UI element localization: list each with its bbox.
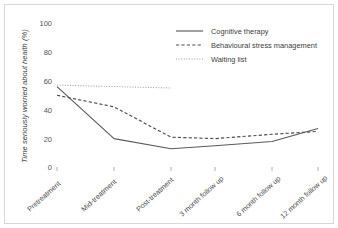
- x-tick-label-12-month-follow-up: 12 month follow up: [278, 173, 329, 220]
- x-axis-labels: Pretreatment Mid-treatment Post-treatmen…: [25, 173, 329, 220]
- x-tick-label-pretreatment: Pretreatment: [25, 179, 62, 213]
- y-tick-label: 80: [44, 48, 52, 57]
- series-group: [57, 85, 318, 149]
- legend: Cognitive therapy Behavioural stress man…: [176, 27, 317, 64]
- series-waiting-list: [57, 85, 171, 88]
- y-tick-label: 60: [44, 77, 52, 86]
- y-tick-label: 0: [48, 163, 52, 172]
- y-axis-ticks: 100 80 60 40 20 0: [39, 19, 52, 172]
- legend-label-waiting-list: Waiting list: [211, 55, 246, 64]
- line-chart: Time seriously worried about health (%) …: [0, 0, 338, 228]
- series-cognitive-therapy: [57, 87, 318, 149]
- x-axis-tick-marks: [57, 167, 318, 171]
- x-tick-label-6-month-follow-up: 6 month follow up: [234, 174, 282, 218]
- y-axis-title: Time seriously worried about health (%): [20, 29, 29, 163]
- y-tick-label: 40: [44, 106, 52, 115]
- chart-figure: Time seriously worried about health (%) …: [0, 0, 338, 228]
- series-behavioural-stress-management: [57, 95, 318, 138]
- legend-label-behavioural-stress-management: Behavioural stress management: [211, 41, 317, 50]
- x-tick-label-post-treatment: Post-treatment: [134, 175, 175, 213]
- y-tick-label: 20: [44, 135, 52, 144]
- x-tick-label-mid-treatment: Mid-treatment: [79, 177, 118, 213]
- y-tick-label: 100: [39, 19, 52, 28]
- x-tick-label-3-month-follow-up: 3 month follow up: [177, 174, 225, 218]
- legend-label-cognitive-therapy: Cognitive therapy: [211, 27, 269, 36]
